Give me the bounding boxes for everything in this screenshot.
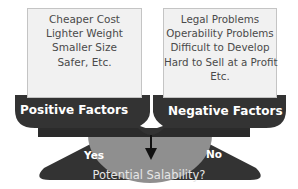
- positive-item: Safer, Etc.: [28, 55, 141, 69]
- negative-item: Hard to Sell at a Profit: [164, 55, 276, 69]
- salability-question: Potential Salability?: [0, 168, 298, 182]
- no-label: No: [206, 148, 222, 160]
- positive-item: Lighter Weight: [28, 26, 141, 40]
- negative-factors-label: Negative Factors: [168, 104, 283, 118]
- negative-item: Legal Problems: [164, 12, 276, 26]
- negative-item: Difficult to Develop: [164, 40, 276, 54]
- positive-factors-label: Positive Factors: [20, 103, 128, 117]
- positive-item: Cheaper Cost: [28, 12, 141, 26]
- positive-item: Smaller Size: [28, 40, 141, 54]
- negative-factors-list: Legal Problems Operability Problems Diff…: [163, 8, 277, 98]
- negative-item: Operability Problems: [164, 26, 276, 40]
- yes-label: Yes: [84, 149, 104, 161]
- positive-factors-list: Cheaper Cost Lighter Weight Smaller Size…: [27, 8, 142, 98]
- negative-item: Etc.: [164, 69, 276, 83]
